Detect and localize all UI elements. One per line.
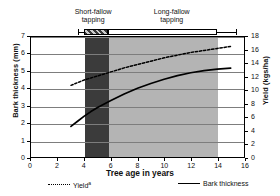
tick-mark: [84, 158, 85, 161]
tick-mark: [245, 144, 248, 145]
y-axis-left-tick-1: 1: [9, 137, 25, 144]
x-axis-tick-14: 14: [210, 162, 226, 169]
y-axis-right-tick-12: 12: [251, 73, 267, 80]
tapping-brackets: Short-fallow tappingLong-fallow tapping: [30, 28, 245, 36]
y-axis-right-tick-8: 8: [251, 100, 267, 107]
x-axis-title: Tree age in years: [0, 168, 280, 178]
tick-mark: [245, 36, 248, 37]
y-axis-right-tick-18: 18: [251, 32, 267, 39]
tick-mark: [111, 158, 112, 161]
y-axis-right-tick-6: 6: [251, 113, 267, 120]
long-fallow-bracket-bar: [108, 29, 217, 35]
x-axis-tick-12: 12: [183, 162, 199, 169]
series-curves: [31, 37, 244, 158]
tick-mark: [27, 141, 30, 142]
tick-mark: [218, 158, 219, 161]
y-axis-right-tick-4: 4: [251, 127, 267, 134]
legend-label: Bark thickness: [203, 180, 249, 187]
tick-mark: [30, 158, 31, 161]
long-fallow-bracket-line-right: [217, 32, 236, 33]
tick-mark: [245, 63, 248, 64]
tick-mark: [245, 104, 248, 105]
y-axis-right-tick-16: 16: [251, 46, 267, 53]
legend-item-bark-thickness[interactable]: Bark thickness: [178, 180, 249, 187]
tick-mark: [164, 158, 165, 161]
legend-label-superscript: a: [88, 180, 91, 186]
long-fallow-label: Long-fallow tapping: [132, 8, 212, 25]
tick-mark: [27, 53, 30, 54]
tick-mark: [245, 131, 248, 132]
legend-item-yield[interactable]: Yielda: [48, 180, 91, 189]
x-axis-tick-8: 8: [130, 162, 146, 169]
tick-mark: [27, 123, 30, 124]
x-axis-tick-2: 2: [49, 162, 65, 169]
tick-mark: [57, 158, 58, 161]
legend-label: Yielda: [73, 180, 91, 189]
tick-mark: [27, 88, 30, 89]
y-axis-left-tick-0: 0: [9, 154, 25, 161]
tick-mark: [27, 71, 30, 72]
tick-mark: [245, 90, 248, 91]
y-axis-left-tick-7: 7: [9, 32, 25, 39]
chart-legend: YieldaBark thickness: [0, 178, 280, 194]
y-axis-right-tick-2: 2: [251, 140, 267, 147]
tick-mark: [245, 117, 248, 118]
tick-mark: [245, 50, 248, 51]
tick-mark: [138, 158, 139, 161]
y-axis-left-tick-4: 4: [9, 84, 25, 91]
x-axis-tick-4: 4: [76, 162, 92, 169]
series-yield: [71, 46, 231, 85]
x-axis-tick-16: 16: [237, 162, 253, 169]
x-axis-tick-6: 6: [103, 162, 119, 169]
x-axis-tick-0: 0: [22, 162, 38, 169]
y-axis-left-tick-2: 2: [9, 119, 25, 126]
tick-mark: [245, 77, 248, 78]
legend-swatch-solid-icon: [178, 183, 200, 184]
plot-area: [30, 36, 245, 158]
chart-figure: Bark thickness (mm) Yield (kgs/ha) Tree …: [0, 0, 280, 196]
long-fallow-bracket-cap-right: [236, 29, 237, 35]
short-fallow-label: Short-fallow tapping: [53, 8, 133, 25]
y-axis-left-tick-3: 3: [9, 102, 25, 109]
tick-mark: [191, 158, 192, 161]
tick-mark: [245, 158, 246, 161]
tick-mark: [27, 36, 30, 37]
tick-mark: [27, 106, 30, 107]
short-fallow-bracket-bar: [84, 29, 108, 35]
legend-swatch-dashed-icon: [48, 184, 70, 185]
x-axis-tick-10: 10: [156, 162, 172, 169]
y-axis-right-tick-14: 14: [251, 59, 267, 66]
y-axis-right-tick-0: 0: [251, 154, 267, 161]
y-axis-right-tick-10: 10: [251, 86, 267, 93]
y-axis-left-tick-6: 6: [9, 49, 25, 56]
y-axis-left-tick-5: 5: [9, 67, 25, 74]
